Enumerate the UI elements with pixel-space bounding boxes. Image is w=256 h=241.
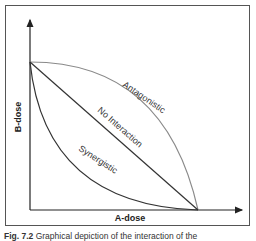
antagonistic-label: Antagonistic [121,79,168,115]
no-interaction-line [30,62,198,210]
y-axis-label: B-dose [13,97,23,137]
caption-label: Fig. 7.2 [4,231,33,241]
x-axis-label: A-dose [110,213,150,223]
synergistic-label: Synergistic [77,143,120,176]
caption-text: Graphical depiction of the interaction o… [36,231,198,241]
figure-caption: Fig. 7.2 Graphical depiction of the inte… [4,231,197,241]
